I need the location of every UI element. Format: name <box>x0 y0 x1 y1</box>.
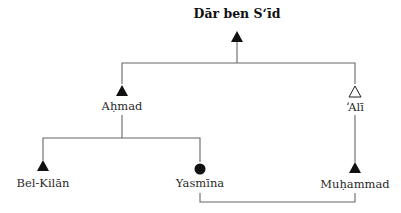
male-filled-triangle-icon <box>231 31 243 42</box>
sibling-bar-generation-2 <box>122 63 355 84</box>
male-filled-triangle-icon <box>116 85 128 96</box>
node-label-muhammad: Muḥammad <box>320 177 389 191</box>
sibling-bar-ahmad-children <box>43 138 200 162</box>
marriage-line-yasmina-muhammad <box>200 193 355 202</box>
male-filled-triangle-icon <box>37 160 49 171</box>
node-label-ahmad: Aḥmad <box>102 99 143 113</box>
female-filled-circle-icon <box>195 164 206 175</box>
male-hollow-triangle-icon <box>349 86 361 97</box>
node-label-bel-kilan: Bel-Kilān <box>16 176 69 190</box>
node-label-dar-ben-said: Dār ben S‘īd <box>194 6 281 21</box>
node-label-ali: ‘Alī <box>346 100 364 114</box>
male-filled-triangle-icon <box>349 162 361 173</box>
node-label-yasmina: Yasmīna <box>176 176 224 190</box>
